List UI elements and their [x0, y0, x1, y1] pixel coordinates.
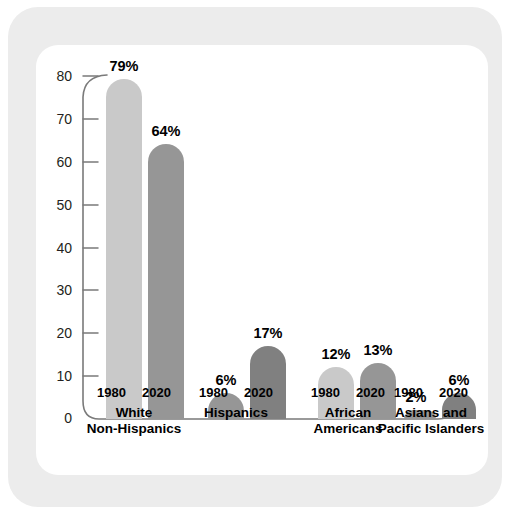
group-name-asians-pacific-islanders: Asians and Pacific Islanders: [363, 405, 499, 437]
y-tick-20: 20: [38, 326, 72, 340]
year-2020: 2020: [142, 385, 171, 400]
year-2020: 2020: [244, 385, 273, 400]
bar-white-non-hispanics-1980[interactable]: [106, 79, 142, 419]
year-1980: 1980: [199, 385, 228, 400]
year-1980: 1980: [97, 385, 126, 400]
bar-value-african-americans-1980: 12%: [312, 347, 360, 362]
bar-value-african-americans-2020: 13%: [354, 343, 402, 358]
y-tick-40: 40: [38, 241, 72, 255]
y-tick-60: 60: [38, 155, 72, 169]
bar-value-hispanics-2020: 17%: [244, 326, 292, 341]
y-tick-10: 10: [38, 369, 72, 383]
bar-value-white-non-hispanics-1980: 79%: [100, 59, 148, 74]
y-tick-70: 70: [38, 112, 72, 126]
bar-value-white-non-hispanics-2020: 64%: [142, 124, 190, 139]
year-1980: 1980: [394, 385, 423, 400]
year-2020: 2020: [439, 385, 468, 400]
bar-white-non-hispanics-2020[interactable]: [148, 144, 184, 419]
figure-frame: 80 70 60 50 40 30 20 10 0 79% 64% 6% 17%…: [8, 7, 502, 507]
year-1980: 1980: [311, 385, 340, 400]
y-tick-50: 50: [38, 198, 72, 212]
tick-marks: [83, 76, 98, 376]
y-tick-30: 30: [38, 283, 72, 297]
group-years-asians-pacific-islanders: 19802020: [363, 385, 499, 400]
y-tick-80: 80: [38, 69, 72, 83]
group-label-asians-pacific-islanders: 19802020 Asians and Pacific Islanders: [363, 385, 499, 437]
